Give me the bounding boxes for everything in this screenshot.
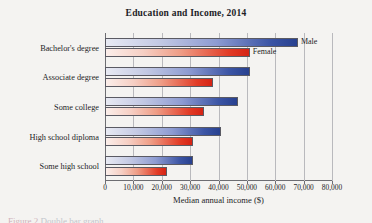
bar-female bbox=[105, 48, 250, 57]
bar-annotation-female: Female bbox=[253, 47, 277, 56]
bar-group bbox=[105, 151, 332, 181]
plot-area: MaleFemale bbox=[105, 33, 332, 181]
chart-title: Education and Income, 2014 bbox=[0, 8, 372, 18]
gridline bbox=[332, 33, 333, 181]
x-tick-label: 0 bbox=[103, 183, 107, 192]
y-axis-label: Some high school bbox=[40, 162, 99, 171]
x-tick-label: 60,000 bbox=[265, 183, 285, 192]
bar-male bbox=[105, 156, 193, 165]
bar-male bbox=[105, 67, 250, 76]
bar-group bbox=[105, 122, 332, 152]
x-tick-label: 70,000 bbox=[293, 183, 313, 192]
x-tick-label: 30,000 bbox=[180, 183, 200, 192]
x-axis-title: Median annual income ($) bbox=[105, 195, 332, 205]
bar-annotation-male: Male bbox=[301, 37, 317, 46]
bar-group: MaleFemale bbox=[105, 33, 332, 63]
y-axis-label: Associate degree bbox=[43, 73, 99, 82]
bar-female bbox=[105, 78, 213, 87]
figure-chart: Education and Income, 2014 Bachelor's de… bbox=[0, 0, 372, 223]
figure-caption: Figure 2 Double bar graph bbox=[8, 216, 103, 223]
bar-groups: MaleFemale bbox=[105, 33, 332, 181]
x-axis-tick-labels: 010,00020,00030,00040,00050,00060,00070,… bbox=[0, 183, 372, 195]
bar-female bbox=[105, 167, 167, 176]
bar-group bbox=[105, 92, 332, 122]
bar-female bbox=[105, 107, 204, 116]
bar-group bbox=[105, 63, 332, 93]
y-axis-category-labels: Bachelor's degreeAssociate degreeSome co… bbox=[0, 33, 103, 181]
bar-male bbox=[105, 127, 221, 136]
y-axis-label: High school diploma bbox=[29, 132, 99, 141]
x-tick-label: 50,000 bbox=[237, 183, 257, 192]
figure-caption-text: Double bar graph bbox=[41, 216, 104, 223]
x-tick-label: 40,000 bbox=[208, 183, 228, 192]
x-tick-label: 10,000 bbox=[123, 183, 143, 192]
figure-number: Figure 2 bbox=[8, 216, 38, 223]
bar-female bbox=[105, 137, 193, 146]
x-tick-label: 20,000 bbox=[152, 183, 172, 192]
y-axis-label: Some college bbox=[54, 103, 99, 112]
bar-male bbox=[105, 97, 238, 106]
bar-male bbox=[105, 38, 298, 47]
y-axis-label: Bachelor's degree bbox=[40, 43, 99, 52]
x-tick-label: 80,000 bbox=[322, 183, 342, 192]
